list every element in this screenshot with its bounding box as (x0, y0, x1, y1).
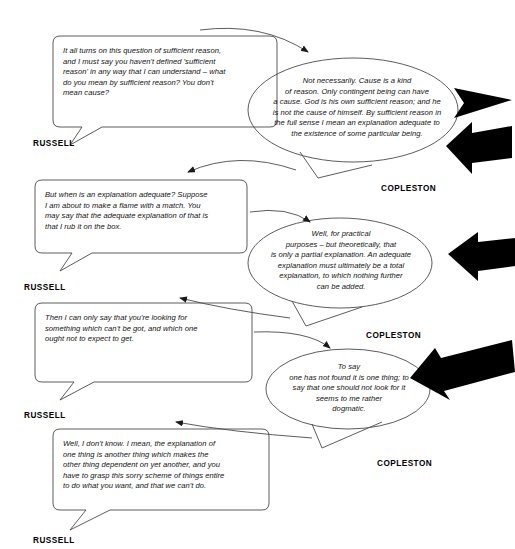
speaker-label-russell-3: RUSSELL (24, 411, 66, 420)
speaker-label-russell-4: RUSSELL (33, 536, 75, 545)
bubble-text-copleston-2: Well, for practical purposes – but theor… (255, 229, 427, 293)
bubble-text-copleston-3: To say one has not found it is one thing… (273, 362, 425, 415)
bubble-text-russell-3: Then I can only say that you're looking … (45, 313, 245, 345)
arrow-block-2-icon (448, 232, 515, 281)
bubble-text-copleston-1: Not necessarily. Cause is a kind of reas… (262, 76, 452, 140)
bubble-text-russell-4: Well, I don't know. I mean, the explanat… (63, 439, 265, 492)
speaker-label-copleston-3: COPLESTON (377, 459, 432, 468)
arrow-block-1-icon (446, 122, 512, 174)
bubble-text-russell-2: But when is an explanation adequate? Sup… (45, 190, 243, 232)
dialogue-diagram: It all turns on this question of suffici… (0, 0, 515, 549)
speaker-label-russell-2: RUSSELL (24, 283, 66, 292)
speaker-label-russell-1: RUSSELL (33, 139, 75, 148)
arrow-block-3-icon (410, 340, 515, 400)
arrow-plain-1-icon (454, 88, 512, 118)
speaker-label-copleston-2: COPLESTON (366, 331, 421, 340)
speaker-label-copleston-1: COPLESTON (381, 184, 436, 193)
bubble-text-russell-1: It all turns on this question of suffici… (63, 46, 271, 99)
